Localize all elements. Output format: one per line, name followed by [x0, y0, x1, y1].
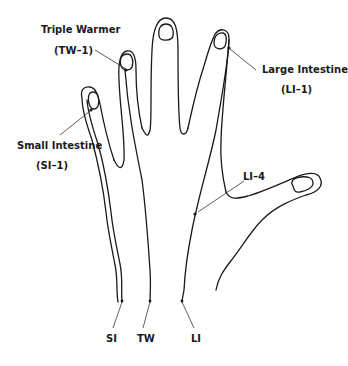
tw-bottom-point — [149, 300, 152, 303]
label-small-intestine-name: Small Intestine — [17, 140, 102, 152]
label-large-intestine-code: (LI–1) — [281, 84, 312, 96]
thumb-nail — [292, 177, 313, 192]
li1-point — [227, 46, 230, 49]
little-finger-nail — [88, 92, 98, 109]
label-small-intestine-code: (SI–1) — [36, 160, 68, 172]
li4-leader-line — [198, 181, 244, 212]
li-bottom-point — [181, 300, 184, 303]
ring-finger-nail — [120, 54, 132, 70]
label-si-bottom: SI — [106, 333, 117, 345]
li4-point — [193, 212, 196, 215]
si1-point — [89, 108, 92, 111]
label-tw-bottom: TW — [137, 333, 155, 345]
label-triple-warmer-code: (TW–1) — [54, 45, 93, 57]
li-bottom-leader-line — [182, 302, 194, 328]
label-li-bottom: LI — [191, 333, 201, 345]
middle-finger-outline — [142, 18, 188, 135]
label-li4: LI–4 — [243, 171, 265, 183]
middle-finger-nail — [159, 24, 173, 40]
little-finger-outline — [81, 87, 118, 302]
si-bottom-point — [121, 300, 124, 303]
index-finger-nail — [214, 33, 226, 49]
tw1-point — [124, 68, 127, 71]
si-bottom-leader-line — [113, 302, 122, 328]
label-triple-warmer-name: Triple Warmer — [41, 24, 120, 36]
index-finger-inner-line — [221, 40, 229, 192]
ring-finger-outline — [114, 51, 142, 168]
tw1-leader-line — [95, 50, 126, 69]
si1-leader-line — [60, 111, 90, 135]
li1-leader-line — [230, 49, 256, 70]
tw-bottom-leader-line — [143, 302, 150, 328]
label-large-intestine-name: Large Intestine — [262, 64, 348, 76]
